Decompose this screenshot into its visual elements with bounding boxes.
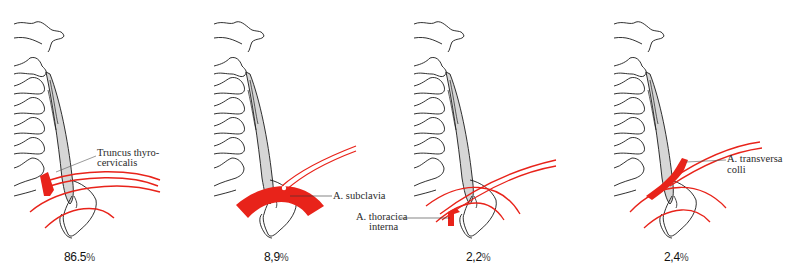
highlighted-origin: [448, 208, 460, 226]
highlighted-origin: [40, 172, 54, 196]
leader-line: [686, 160, 726, 162]
percentage: 8,9%: [264, 250, 288, 264]
label-line-1: A. transversa: [727, 153, 782, 164]
illustration-spine-variant-c: [400, 0, 600, 250]
percentage: 86.5%: [64, 250, 95, 264]
panel-transversa-colli: A. transversa colli 2,4%: [600, 0, 800, 278]
illustration-spine-variant-d: [600, 0, 803, 250]
panel-thoracica-interna: 2,2%: [400, 0, 600, 278]
panel-truncus-thyrocervicalis: Truncus thyro- cervicalis 86.5%: [0, 0, 200, 278]
label-line-2: cervicalis: [97, 157, 137, 168]
highlighted-subclavia-band: [236, 186, 324, 218]
panel-subclavia: A. subclavia 8,9%: [200, 0, 400, 278]
artery-lower-arc: [45, 209, 114, 228]
label-line-1: A. subclavia: [333, 190, 386, 201]
label-thoracica-interna-line-2: interna: [369, 221, 398, 232]
percentage: 2,2%: [466, 250, 490, 264]
vessel-origin-dot: [282, 186, 286, 190]
illustration-spine-variant-a: [0, 0, 200, 250]
percentage: 2,4%: [664, 250, 688, 264]
label-line-2: colli: [727, 164, 746, 175]
